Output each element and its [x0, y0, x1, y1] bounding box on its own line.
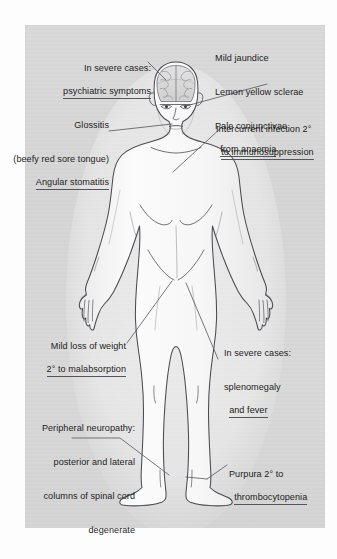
label-splenomegaly: In severe cases: splenomegaly and fever — [224, 325, 324, 418]
label-intercurrent-infection: Intercurrent infection 2° to immunosuppr… — [216, 101, 336, 160]
label-peripheral-neuropathy: Peripheral neuropathy: posterior and lat… — [18, 400, 135, 548]
label-weight-loss: Mild loss of weight 2° to malabsorption — [18, 318, 126, 377]
label-purpura: Purpura 2° to thrombocytopenia — [229, 446, 329, 505]
eye-right — [181, 105, 191, 109]
eye-left — [162, 105, 172, 109]
brain-cross-section — [157, 66, 195, 102]
label-glossitis: Glossitis (beefy red sore tongue) Angula… — [4, 97, 109, 190]
pupil-left — [165, 105, 168, 108]
label-psychiatric-symptoms: In severe cases: psychiatric symptoms — [46, 40, 151, 99]
